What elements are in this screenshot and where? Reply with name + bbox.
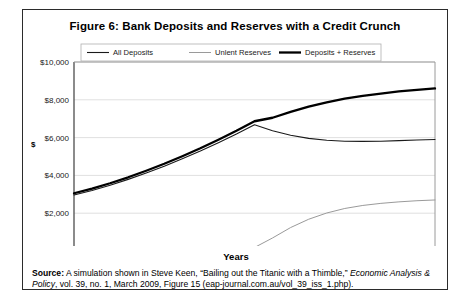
series-line-unlent-reserves [74,200,435,246]
y-tick-label: $6,000 [45,134,70,143]
chart-area: 0$2,000$4,000$6,000$8,000$10,00020253035… [23,38,449,246]
source-text-part1: A simulation shown in Steve Keen, “Baili… [64,268,350,278]
line-chart: 0$2,000$4,000$6,000$8,000$10,00020253035… [23,38,449,246]
source-label: Source: [32,268,64,278]
x-axis-label: Years [23,251,449,262]
legend-label-3: Deposits + Reserves [305,48,375,57]
y-tick-label: $8,000 [45,96,70,105]
source-text-part2: , vol. 39, no. 1, March 2009, Figure 15 … [55,279,354,289]
figure-title: Figure 6: Bank Deposits and Reserves wit… [23,20,447,32]
y-tick-label: $2,000 [45,209,70,218]
legend-label-1: All Deposits [113,48,153,57]
series-line-all-deposits [74,125,435,195]
legend-label-2: Unlent Reserves [215,48,271,57]
y-tick-label: $4,000 [45,171,70,180]
figure-page: Figure 6: Bank Deposits and Reserves wit… [0,0,470,299]
y-tick-label: $10,000 [40,58,69,67]
source-caption: Source: A simulation shown in Steve Keen… [32,268,438,291]
figure-container: Figure 6: Bank Deposits and Reserves wit… [22,9,448,290]
